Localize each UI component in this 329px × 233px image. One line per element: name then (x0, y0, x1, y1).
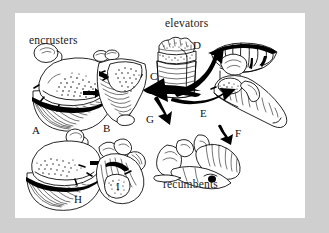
category-label-recumbents: recumbents (163, 178, 218, 190)
specimen-label-c: C (150, 70, 157, 82)
category-label-encrusters: encrusters (29, 34, 78, 46)
specimen-label-i: I (116, 180, 120, 192)
specimen-H-drawing (26, 129, 102, 210)
specimen-label-a: A (32, 124, 40, 136)
specimen-label-f: F (235, 127, 241, 139)
arrow-E-to-F (218, 125, 233, 145)
specimen-label-e: E (200, 107, 207, 119)
specimen-label-h: H (74, 193, 82, 205)
specimen-label-g: G (146, 113, 154, 125)
specimen-label-b: B (103, 122, 110, 134)
category-label-elevators: elevators (165, 17, 208, 29)
figure-panel: encrusters elevators recumbents A B C D … (15, 13, 305, 218)
specimen-label-d: D (193, 39, 201, 51)
specimen-I-drawing (96, 139, 145, 204)
